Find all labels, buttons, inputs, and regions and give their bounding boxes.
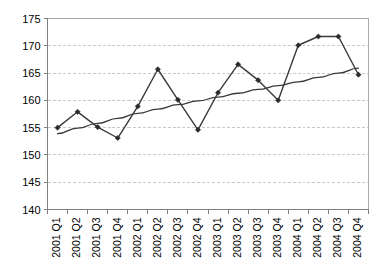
x-tick-label: 2003 Q4 — [271, 217, 283, 257]
line-chart: 140145150155160165170175 2001 Q12001 Q22… — [0, 0, 384, 271]
y-tick-label: 160 — [22, 94, 40, 106]
y-tick-label: 150 — [22, 149, 40, 161]
x-tick-label: 2001 Q3 — [90, 217, 102, 257]
x-tick-label: 2004 Q2 — [311, 217, 323, 257]
data-point-marker — [316, 34, 321, 39]
plot-area-border — [48, 19, 369, 210]
x-tick-label: 2001 Q2 — [70, 217, 82, 257]
y-tick-label: 175 — [22, 13, 40, 25]
data-point-markers — [55, 34, 361, 141]
y-tick-label: 140 — [22, 204, 40, 216]
x-axis-tick-labels: 2001 Q12001 Q22001 Q32001 Q42002 Q12002 … — [50, 217, 363, 257]
x-tick-label: 2003 Q1 — [211, 217, 223, 257]
y-tick-label: 165 — [22, 67, 40, 79]
x-tick-label: 2001 Q4 — [111, 217, 123, 257]
x-tick-label: 2001 Q1 — [50, 217, 62, 257]
data-point-marker — [336, 34, 341, 39]
y-axis-tick-labels: 140145150155160165170175 — [22, 13, 40, 216]
x-axis — [48, 210, 369, 214]
grid-lines — [48, 46, 369, 182]
x-tick-label: 2004 Q4 — [351, 217, 363, 257]
y-tick-label: 145 — [22, 176, 40, 188]
data-point-marker — [296, 43, 301, 48]
y-axis — [44, 19, 48, 210]
x-tick-label: 2002 Q1 — [131, 217, 143, 257]
x-tick-label: 2003 Q2 — [231, 217, 243, 257]
x-tick-label: 2003 Q3 — [251, 217, 263, 257]
x-tick-label: 2002 Q3 — [171, 217, 183, 257]
trend-line-path — [58, 68, 359, 133]
x-tick-label: 2004 Q1 — [291, 217, 303, 257]
x-tick-label: 2002 Q4 — [191, 217, 203, 257]
chart-canvas: 140145150155160165170175 2001 Q12001 Q22… — [0, 0, 384, 271]
trend-line-series — [58, 68, 359, 133]
x-tick-label: 2002 Q2 — [151, 217, 163, 257]
y-tick-label: 170 — [22, 40, 40, 52]
y-tick-label: 155 — [22, 122, 40, 134]
x-tick-label: 2004 Q3 — [331, 217, 343, 257]
